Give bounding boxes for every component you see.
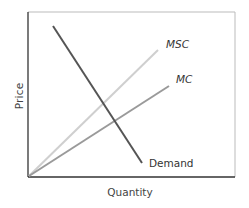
mc-curve <box>29 86 169 176</box>
x-axis-label: Quantity <box>105 186 155 198</box>
mc-label: MC <box>176 73 192 85</box>
chart: Price Quantity MSC MC Demand <box>0 0 249 208</box>
y-axis-label-text: Price <box>13 76 25 116</box>
chart-plot-area <box>0 0 249 208</box>
y-axis-label: Price <box>3 58 17 88</box>
demand-label: Demand <box>149 157 194 169</box>
demand-curve <box>53 26 142 163</box>
msc-label: MSC <box>166 38 189 50</box>
